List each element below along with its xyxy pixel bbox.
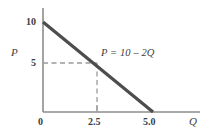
y-axis-variable-label: P xyxy=(11,47,18,58)
demand-equation-annotation: P = 10 – 2Q xyxy=(101,48,155,59)
x-axis-variable-label: Q xyxy=(189,116,197,127)
x-axis-tick-label-2-5: 2.5 xyxy=(88,117,101,127)
x-axis-tick-label-5-0: 5.0 xyxy=(143,117,156,127)
demand-curve-line xyxy=(43,22,153,112)
y-axis-tick-label-5: 5 xyxy=(31,58,36,68)
x-axis-tick-label-0: 0 xyxy=(38,117,43,127)
y-axis-tick-label-10: 10 xyxy=(26,17,36,27)
demand-curve-figure: 10 5 P 0 2.5 5.0 Q P = 10 – 2Q xyxy=(0,0,209,134)
